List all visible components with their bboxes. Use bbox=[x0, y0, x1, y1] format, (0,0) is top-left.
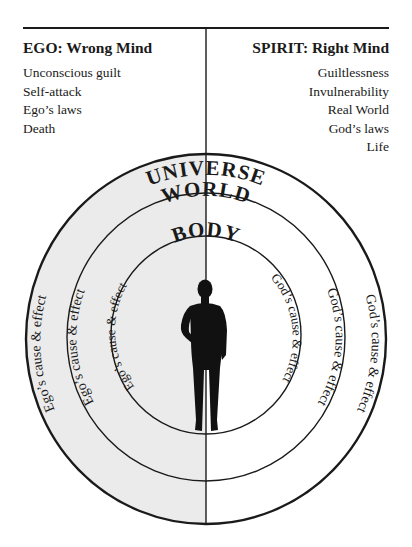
god-inner-ring-label: God’s cause & effect bbox=[268, 270, 305, 386]
god-middle-ring-label: God’s cause & effect bbox=[315, 286, 348, 409]
concentric-diagram: UNIVERSE WORLD BODY Ego’s cause & effect… bbox=[0, 0, 412, 547]
god-outer-ring-label: God’s cause & effect bbox=[354, 293, 384, 416]
